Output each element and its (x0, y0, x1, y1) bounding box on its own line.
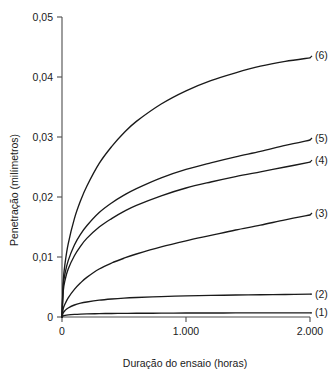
x-axis-title: Duração do ensaio (horas) (123, 357, 247, 369)
x-tick-label: 0 (59, 325, 65, 337)
x-tick-label: 2.000 (297, 325, 323, 337)
y-tick-label: 0,01 (33, 251, 54, 263)
y-tick-label: 0 (47, 311, 53, 323)
y-tick-label: 0,04 (33, 71, 54, 83)
series-label-4: (4) (315, 154, 328, 166)
series-label-3: (3) (315, 207, 328, 219)
y-axis-title: Penetração (milímetros) (8, 134, 20, 246)
chart-container: 00,010,020,030,040,05 01.0002.000 (1)(2)… (0, 0, 335, 374)
series-label-6: (6) (315, 49, 328, 61)
penetration-vs-duration-line-chart: 00,010,020,030,040,05 01.0002.000 (1)(2)… (0, 0, 335, 374)
y-tick-label: 0,02 (33, 191, 54, 203)
series-label-5: (5) (315, 132, 328, 144)
y-tick-label: 0,05 (33, 11, 54, 23)
series-label-1: (1) (315, 306, 328, 318)
series-label-2: (2) (315, 288, 328, 300)
y-tick-label: 0,03 (33, 131, 54, 143)
x-tick-label: 1.000 (173, 325, 199, 337)
